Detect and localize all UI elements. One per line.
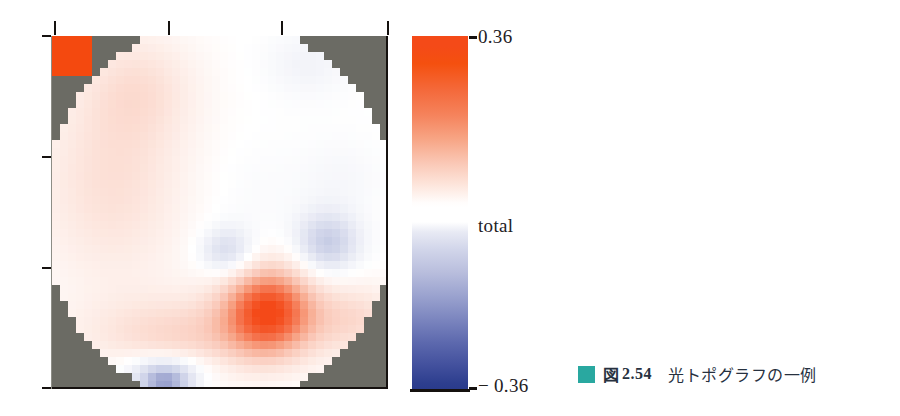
- caption-figure-number: 2.54: [622, 365, 652, 383]
- axis-tick-left-3: [42, 267, 51, 269]
- caption-marker-square: [578, 366, 595, 383]
- axis-tick-top-4: [387, 21, 389, 35]
- topography-heatmap-canvas: [52, 36, 388, 389]
- figure-caption: 図 2.54 光トポグラフの一例: [578, 362, 817, 386]
- topography-heatmap: [52, 36, 388, 389]
- colorbar-mid-label: total: [478, 215, 513, 237]
- axis-tick-top-1: [54, 21, 56, 35]
- colorbar-tick-min: [469, 387, 477, 390]
- colorbar: [412, 36, 468, 389]
- axis-tick-top-3: [281, 21, 283, 35]
- colorbar-negative-gradient: [412, 222, 468, 389]
- colorbar-baseline-rule: [410, 389, 470, 392]
- axis-tick-left-4: [42, 387, 51, 389]
- caption-title-text: 光トポグラフの一例: [668, 362, 817, 386]
- colorbar-max-label: 0.36: [478, 26, 512, 48]
- axis-tick-left-1: [42, 35, 51, 37]
- caption-figure-label: 図: [603, 362, 619, 386]
- colorbar-tick-max: [469, 36, 477, 39]
- optical-topography-figure: 0.36 total − 0.36: [0, 0, 560, 416]
- colorbar-min-label: − 0.36: [478, 375, 529, 397]
- colorbar-neutral-band: [412, 208, 468, 222]
- axis-tick-top-2: [168, 21, 170, 35]
- axis-tick-left-2: [42, 156, 51, 158]
- colorbar-positive-gradient: [412, 36, 468, 208]
